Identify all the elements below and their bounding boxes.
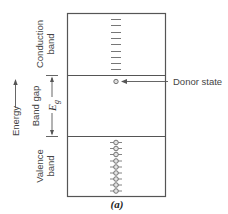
gap-arrow-down-icon xyxy=(50,130,54,136)
gap-arrow-up-icon xyxy=(50,77,54,83)
band-gap-label: Band gap xyxy=(30,86,41,127)
svg-text:Band gap: Band gap xyxy=(30,86,41,127)
svg-text:E: E xyxy=(46,104,58,112)
svg-text:Conduction: Conduction xyxy=(34,20,45,68)
svg-text:Energy: Energy xyxy=(10,106,21,136)
figure-caption: (a) xyxy=(111,198,124,211)
conduction-band-label: Conduction band xyxy=(34,20,56,68)
energy-arrow-icon xyxy=(13,79,17,85)
conduction-band-levels xyxy=(111,20,121,70)
energy-axis-label: Energy xyxy=(10,106,21,136)
donor-state-dot xyxy=(114,79,118,83)
band-diagram: Donor state xyxy=(0,0,228,214)
valence-band-label: Valence band xyxy=(34,149,56,183)
donor-state-arrow xyxy=(121,79,168,84)
valence-band-electrons xyxy=(110,140,122,193)
svg-text:band: band xyxy=(45,33,56,54)
band-gap-symbol: E g xyxy=(46,100,61,112)
svg-text:Valence: Valence xyxy=(34,149,45,183)
donor-state-label: Donor state xyxy=(173,76,222,87)
svg-text:g: g xyxy=(52,100,61,104)
svg-text:band: band xyxy=(45,155,56,176)
